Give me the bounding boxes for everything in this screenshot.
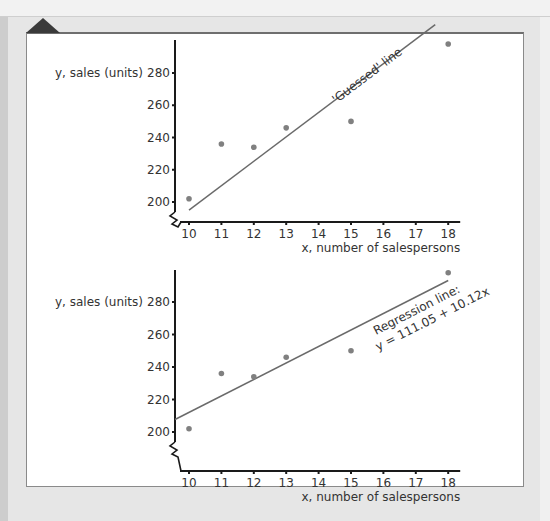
axis-break-zigzag bbox=[170, 212, 181, 227]
y-tick-label: 220 bbox=[147, 163, 170, 177]
x-tick-label: 12 bbox=[246, 476, 261, 490]
y-tick-label: 200 bbox=[147, 195, 170, 209]
x-tick-label: 16 bbox=[376, 476, 391, 490]
y-tick-label: 220 bbox=[147, 393, 170, 407]
x-tick-label: 11 bbox=[214, 227, 229, 241]
x-tick-label: 17 bbox=[408, 227, 423, 241]
regression-line-chart: 200220240260280 101112131415161718 y, sa… bbox=[55, 270, 492, 504]
x-tick-label: 14 bbox=[311, 227, 326, 241]
x-tick-label: 14 bbox=[311, 476, 326, 490]
x-tick-label: 10 bbox=[181, 227, 196, 241]
data-point bbox=[283, 354, 289, 360]
regression-line bbox=[175, 281, 448, 420]
data-point bbox=[186, 426, 192, 432]
x-tick-label: 18 bbox=[441, 227, 456, 241]
x-tick-label: 17 bbox=[408, 476, 423, 490]
data-point bbox=[445, 270, 451, 276]
data-point bbox=[348, 119, 354, 125]
x-tick-label: 12 bbox=[246, 227, 261, 241]
axis-break-zigzag bbox=[170, 442, 181, 471]
x-tick-label: 15 bbox=[343, 227, 358, 241]
data-point bbox=[348, 348, 354, 354]
y-tick-label: 280 bbox=[147, 295, 170, 309]
y-axis-title: y, sales (units) bbox=[55, 295, 143, 309]
x-tick-label: 10 bbox=[181, 476, 196, 490]
x-tick-label: 16 bbox=[376, 227, 391, 241]
x-tick-label: 15 bbox=[343, 476, 358, 490]
x-tick-label: 11 bbox=[214, 476, 229, 490]
data-point bbox=[251, 374, 257, 380]
x-tick-label: 13 bbox=[279, 476, 294, 490]
y-tick-label: 280 bbox=[147, 66, 170, 80]
data-point bbox=[251, 144, 257, 150]
y-tick-label: 260 bbox=[147, 328, 170, 342]
x-tick-label: 13 bbox=[279, 227, 294, 241]
charts-canvas: 200220240260280 101112131415161718 y, sa… bbox=[0, 0, 550, 521]
x-tick-label: 18 bbox=[441, 476, 456, 490]
data-point bbox=[219, 141, 225, 147]
data-point bbox=[283, 125, 289, 131]
y-axis-title: y, sales (units) bbox=[55, 66, 143, 80]
y-tick-label: 260 bbox=[147, 98, 170, 112]
guessed-line-label: 'Guessed' line bbox=[329, 45, 404, 107]
y-tick-label: 240 bbox=[147, 360, 170, 374]
data-point bbox=[445, 41, 451, 47]
x-axis-title: x, number of salespersons bbox=[301, 490, 460, 504]
data-point bbox=[186, 196, 192, 202]
y-tick-label: 240 bbox=[147, 131, 170, 145]
y-tick-label: 200 bbox=[147, 425, 170, 439]
guessed-line-chart: 200220240260280 101112131415161718 y, sa… bbox=[55, 25, 460, 255]
data-point bbox=[219, 371, 225, 377]
x-axis-title: x, number of salespersons bbox=[301, 241, 460, 255]
